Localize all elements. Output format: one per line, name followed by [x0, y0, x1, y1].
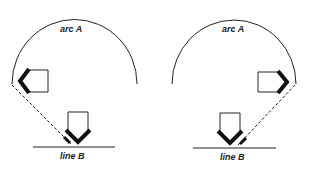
side-pentagon-right	[258, 71, 287, 93]
dashed-path	[12, 85, 72, 145]
arc-a-label: arc A	[60, 24, 82, 34]
bottom-pentagon	[218, 113, 246, 144]
line-b-label: line B	[60, 151, 85, 161]
arc-a-label: arc A	[222, 24, 244, 34]
bottom-pentagon	[64, 112, 90, 143]
diagram-canvas: arc A line B arc A	[0, 0, 310, 172]
right-diagram: arc A line B	[172, 20, 296, 162]
dashed-path	[238, 85, 295, 145]
side-pentagon-left	[20, 69, 48, 93]
left-diagram: arc A line B	[12, 19, 137, 161]
line-b-label: line B	[220, 152, 245, 162]
